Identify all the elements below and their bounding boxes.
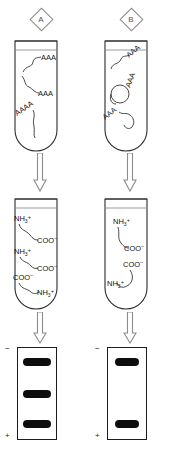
protein-tube-a: NH3+ COO− NH3+ COO− COO− NH3+ <box>13 196 59 309</box>
gel-b <box>107 347 147 440</box>
mrna-tube-b: AAA AAA AAA <box>103 38 149 151</box>
gel-a-band-3 <box>23 420 51 428</box>
gel-a-anode-label: + <box>5 432 10 440</box>
panel-a: A AAA AAA AAAA <box>0 0 90 455</box>
svg-text:COO−: COO− <box>37 235 57 245</box>
panel-label-a-text: A <box>31 9 51 29</box>
panel-label-b-text: B <box>121 9 141 29</box>
poly-a-label: AAA <box>38 89 53 98</box>
arrow-electrophoresis-a <box>32 312 48 345</box>
svg-text:NH3+: NH3+ <box>37 288 54 298</box>
arrow-electrophoresis-b <box>122 312 138 345</box>
gel-a-band-1 <box>23 358 51 366</box>
svg-text:NH3+: NH3+ <box>14 247 31 257</box>
svg-text:NH3+: NH3+ <box>113 217 130 227</box>
svg-text:COO−: COO− <box>37 263 57 273</box>
gel-b-band-2 <box>115 420 139 428</box>
panel-label-b: B <box>121 9 141 29</box>
figure-canvas: A AAA AAA AAAA <box>0 0 180 455</box>
svg-text:NH3+: NH3+ <box>14 214 31 224</box>
arrow-translate-b <box>122 153 138 193</box>
svg-text:COO−: COO− <box>13 272 33 282</box>
gel-b-anode-label: + <box>95 432 100 440</box>
arrow-translate-a <box>32 153 48 193</box>
gel-a-cathode-label: − <box>5 345 10 353</box>
panel-label-a: A <box>31 9 51 29</box>
gel-b-band-1 <box>115 358 139 366</box>
panel-b: B AAA AAA AAA <box>90 0 180 455</box>
gel-b-cathode-label: − <box>95 345 100 353</box>
svg-text:COO−: COO− <box>123 259 143 269</box>
mrna-tube-a: AAA AAA AAAA <box>13 38 59 151</box>
svg-text:COO−: COO− <box>124 243 144 253</box>
poly-a-label: AAA <box>125 43 142 60</box>
gel-a <box>17 347 57 440</box>
poly-a-label: AAA <box>101 105 118 121</box>
poly-a-label: AAAA <box>13 99 35 118</box>
poly-a-label: AAA <box>41 53 56 62</box>
poly-a-label: AAA <box>123 71 137 88</box>
protein-tube-b: NH3+ COO− COO− NH3+ <box>103 196 149 309</box>
gel-a-band-2 <box>23 390 51 398</box>
